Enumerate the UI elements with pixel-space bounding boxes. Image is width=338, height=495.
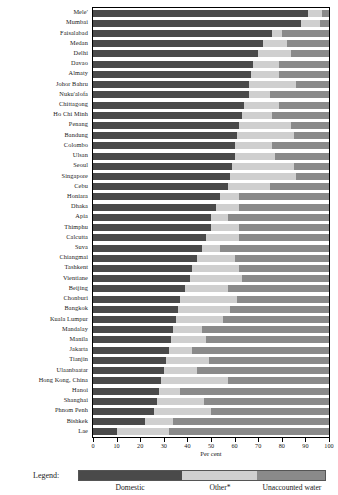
bar-segment — [239, 234, 329, 241]
category-label: Mandalay — [62, 325, 88, 332]
bar-segment — [157, 398, 204, 405]
category-label: Mumbai — [66, 18, 88, 25]
category-label: Chiangmai — [59, 253, 88, 260]
bar-segment — [279, 71, 329, 78]
bar-segment — [192, 347, 329, 354]
bar-row — [93, 377, 329, 384]
bar-segment — [244, 102, 279, 109]
bar-segment — [185, 285, 227, 292]
bar-row — [93, 173, 329, 180]
category-label: Lae — [78, 427, 88, 434]
legend-swatch — [79, 471, 182, 480]
bar-segment — [173, 326, 201, 333]
bar-segment — [249, 81, 296, 88]
axis-tick-label: 40 — [184, 442, 190, 449]
bar-row — [93, 255, 329, 262]
category-label: Phnom Penh — [55, 406, 88, 413]
bar-segment — [237, 296, 329, 303]
category-label: Ho Chi Minh — [53, 110, 88, 117]
bar-segment — [272, 30, 281, 37]
bar-segment — [166, 357, 208, 364]
bar-segment — [93, 408, 154, 415]
category-label: Chittagong — [59, 100, 88, 107]
axis-tick-label: 70 — [255, 442, 261, 449]
bar-segment — [320, 20, 329, 27]
bar-segment — [308, 10, 322, 17]
bar-segment — [93, 193, 220, 200]
bar-segment — [228, 214, 329, 221]
category-label: Calcutta — [66, 233, 88, 240]
bar-segment — [180, 296, 237, 303]
category-label: Beijing — [69, 284, 88, 291]
bar-segment — [239, 193, 329, 200]
bar-segment — [211, 214, 228, 221]
bar-segment — [93, 173, 230, 180]
category-label: Johor Bahru — [56, 80, 88, 87]
bar-segment — [301, 20, 320, 27]
category-label: Hanoi — [72, 386, 88, 393]
bar-segment — [93, 357, 166, 364]
bar-row — [93, 50, 329, 57]
bar-segment — [263, 40, 287, 47]
bar-segment — [93, 122, 239, 129]
bar-segment — [251, 71, 279, 78]
bar-row — [93, 30, 329, 37]
bar-segment — [206, 234, 239, 241]
bar-segment — [192, 265, 239, 272]
category-label: Chonburi — [63, 294, 88, 301]
bar-segment — [93, 296, 180, 303]
bar-segment — [258, 50, 291, 57]
axis-tick-label: 100 — [324, 442, 333, 449]
bar-segment — [180, 388, 329, 395]
bar-segment — [173, 418, 329, 425]
category-label: Kuala Lumpur — [50, 315, 88, 322]
bar-segment — [228, 183, 270, 190]
bar-segment — [93, 163, 232, 170]
bar-segment — [242, 275, 329, 282]
bar-segment — [93, 20, 301, 27]
category-label: Mele' — [73, 8, 88, 15]
category-label: Jakarta — [69, 345, 88, 352]
bar-segment — [93, 61, 253, 68]
category-axis-labels: Mele'MumbaiFaisalabadMedanDelhiDavaoAlma… — [0, 0, 92, 438]
bar-segment — [93, 306, 178, 313]
bar-segment — [171, 336, 206, 343]
bar-segment — [228, 377, 329, 384]
category-label: Singapore — [62, 172, 88, 179]
axis-tick-label: 90 — [302, 442, 308, 449]
category-label: Tianjin — [69, 355, 88, 362]
bar-segment — [223, 316, 329, 323]
bar-segment — [93, 234, 206, 241]
bar-row — [93, 357, 329, 364]
bar-segment — [169, 347, 193, 354]
category-label: Ulsan — [73, 151, 88, 158]
bar-row — [93, 245, 329, 252]
bar-segment — [93, 367, 164, 374]
bar-segment — [220, 245, 329, 252]
bar-row — [93, 40, 329, 47]
bar-segment — [291, 50, 329, 57]
bar-segment — [202, 326, 329, 333]
bar-segment — [272, 142, 329, 149]
bar-segment — [239, 204, 329, 211]
bar-segment — [239, 122, 291, 129]
bar-row — [93, 265, 329, 272]
legend-swatch — [257, 471, 325, 480]
bar-segment — [93, 377, 161, 384]
bar-row — [93, 163, 329, 170]
bar-segment — [197, 367, 329, 374]
bar-segment — [93, 112, 242, 119]
bar-row — [93, 316, 329, 323]
category-label: Honiara — [67, 192, 88, 199]
bar-segment — [93, 418, 145, 425]
bar-row — [93, 20, 329, 27]
category-label: Thimphu — [64, 223, 88, 230]
axis-tick-label: 30 — [161, 442, 167, 449]
x-axis-title: Per cent — [92, 450, 330, 457]
axis-tick-label: 20 — [137, 442, 143, 449]
category-label: Ulaanbaatar — [56, 366, 88, 373]
bar-row — [93, 10, 329, 17]
bar-segment — [93, 245, 202, 252]
bar-segment — [93, 132, 237, 139]
chart-legend: Legend: DomesticOther*Unaccounted water — [0, 466, 338, 495]
